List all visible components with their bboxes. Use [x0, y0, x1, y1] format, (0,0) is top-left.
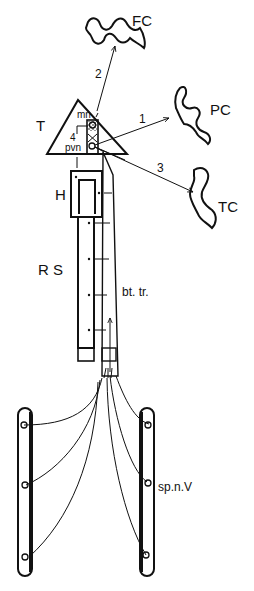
tc-label: TC — [218, 198, 238, 215]
tc-cortex-shape — [190, 168, 216, 228]
rs-label: R S — [38, 261, 63, 278]
h-label: H — [55, 186, 66, 203]
right-node-1 — [145, 422, 151, 428]
pvn-nucleus-circle — [89, 143, 95, 149]
pc-cortex-shape — [175, 87, 210, 144]
sp-n-v-label: sp.n.V — [158, 480, 192, 494]
right-node-2 — [145, 480, 151, 486]
spinal-fibers — [24, 368, 149, 557]
mn-label: mn — [77, 109, 91, 120]
h-dot — [75, 176, 77, 178]
fc-label: FC — [132, 12, 152, 29]
rs-column — [78, 217, 94, 348]
arrow-1-label: 1 — [139, 112, 146, 126]
pvn-label: pvn — [65, 142, 81, 153]
rs-collaterals — [88, 192, 112, 331]
bt-tr-label: bt. tr. — [122, 285, 149, 299]
left-node-3 — [22, 554, 28, 560]
mn-pointer — [96, 113, 98, 117]
arrow-3-label: 3 — [157, 161, 164, 175]
diagram-canvas: FC PC TC T mn 4 pvn 2 1 3 H R S — [0, 0, 254, 591]
arrow-2-label: 2 — [95, 67, 102, 81]
pc-label: PC — [210, 101, 231, 118]
t-label: T — [36, 117, 45, 134]
bt-tr-connector — [95, 147, 104, 152]
rs-stub — [78, 348, 94, 361]
tract-stub — [102, 348, 116, 361]
h-inner-loop — [79, 180, 95, 214]
